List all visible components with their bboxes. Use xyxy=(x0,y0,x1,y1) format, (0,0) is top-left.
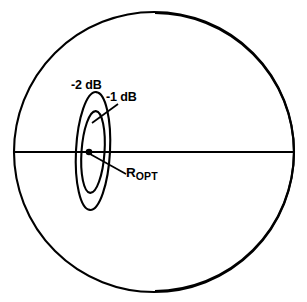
ropt-point-marker xyxy=(86,149,93,156)
ropt-label-subscript: OPT xyxy=(136,170,158,182)
smith-chart-figure: -2 dB -1 dB ROPT xyxy=(0,0,307,302)
gain-circle-label-minus-2db: -2 dB xyxy=(71,79,102,92)
gain-circle-label-minus-1db: -1 dB xyxy=(106,91,137,104)
leader-line-minus-1db xyxy=(92,104,118,123)
lower-reactance-arc xyxy=(155,152,294,291)
smith-chart-graphic xyxy=(0,0,307,302)
ropt-label: ROPT xyxy=(126,166,158,180)
upper-reactance-arc xyxy=(155,13,294,152)
ropt-label-main: R xyxy=(126,165,136,180)
